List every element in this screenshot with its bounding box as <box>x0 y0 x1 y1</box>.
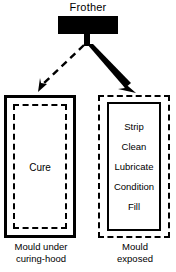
caption-cure-line-2: curing-hood <box>0 253 82 265</box>
arrow-to-service <box>87 44 136 93</box>
frother-stem <box>84 34 90 46</box>
caption-cure-line-1: Mould under <box>0 241 82 253</box>
service-step-item: Clean <box>109 137 159 157</box>
branch-box-service: Strip Clean Lubricate Condition Fill <box>98 95 170 238</box>
process-flow-diagram: Frother Cure Strip Clean Lubricate Condi <box>0 0 176 272</box>
service-step-list: Strip Clean Lubricate Condition Fill <box>109 117 159 217</box>
service-inner-pane: Strip Clean Lubricate Condition Fill <box>107 102 161 231</box>
caption-cure: Mould under curing-hood <box>0 241 82 265</box>
frother-block <box>58 16 118 34</box>
arrow-to-cure <box>38 45 84 92</box>
service-step-item: Lubricate <box>109 157 159 177</box>
caption-service-line-2: exposed <box>94 253 176 265</box>
service-step-item: Fill <box>109 197 159 217</box>
caption-service: Mould exposed <box>94 241 176 265</box>
cure-inner-pane: Cure <box>13 104 67 229</box>
frother-label: Frother <box>0 1 176 14</box>
service-step-item: Strip <box>109 117 159 137</box>
branch-box-cure: Cure <box>4 95 76 238</box>
cure-step-label: Cure <box>15 161 65 172</box>
caption-service-line-1: Mould <box>94 241 176 253</box>
service-step-item: Condition <box>109 177 159 197</box>
